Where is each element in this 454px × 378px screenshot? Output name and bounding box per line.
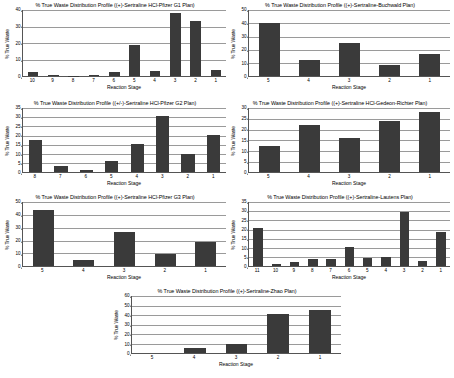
- x-tick-label: 2: [413, 267, 431, 274]
- y-axis-ticks: 01020304050: [11, 202, 22, 267]
- x-tick-label: 1: [185, 267, 226, 274]
- bar-slot: [64, 202, 105, 266]
- chart-lautens: % True Waste Distribution Profile ((+)-S…: [230, 194, 450, 288]
- x-axis-label: Reaction Stage: [22, 180, 226, 186]
- y-tick-label: 30: [241, 106, 246, 111]
- bar: [259, 146, 280, 173]
- chart-title: % True Waste Distribution Profile ((+)-S…: [230, 100, 450, 107]
- plot-wrap: % True Waste05101520253035: [4, 108, 226, 173]
- x-tick-label: 1: [206, 77, 226, 84]
- bar: [211, 70, 222, 76]
- y-axis-label: % True Waste: [113, 296, 120, 354]
- x-tick-label: 5: [22, 267, 63, 274]
- bar-slot: [165, 10, 185, 76]
- x-axis-ticks: 54321: [248, 173, 450, 180]
- bar-series: [132, 296, 341, 353]
- chart-pfizer-g1: % True Waste Distribution Profile ((+)-S…: [4, 2, 226, 98]
- bar-slot: [43, 10, 63, 76]
- bar-slot: [185, 10, 205, 76]
- x-axis-label: Reaction Stage: [22, 274, 226, 280]
- bar: [105, 161, 118, 172]
- y-axis-label: % True Waste: [4, 10, 11, 77]
- x-tick-label: 5: [131, 354, 173, 361]
- bar: [89, 75, 100, 76]
- bar-slot: [124, 10, 144, 76]
- x-tick-label: 3: [104, 267, 145, 274]
- y-axis-ticks: 051015202530: [237, 108, 248, 173]
- y-tick-label: 0: [18, 265, 21, 270]
- y-axis-label: % True Waste: [230, 10, 237, 77]
- y-tick-label: 20: [241, 128, 246, 133]
- x-tick-label: 8: [22, 173, 48, 180]
- x-tick-label: 3: [165, 77, 185, 84]
- bar-slot: [23, 108, 48, 172]
- bar: [207, 135, 220, 172]
- y-tick-label: 20: [241, 48, 246, 53]
- chart-title: % True Waste Distribution Profile ((+)-S…: [4, 194, 226, 201]
- bar-slot: [289, 108, 329, 172]
- x-axis-ticks: 54321: [22, 267, 226, 274]
- bar-slot: [304, 202, 322, 266]
- y-tick-label: 30: [241, 35, 246, 40]
- x-axis-ticks: 10987654321: [22, 77, 226, 84]
- chart-pfizer-g3: % True Waste Distribution Profile ((+)-S…: [4, 194, 226, 288]
- bar: [195, 242, 216, 266]
- bar-slot: [370, 10, 410, 76]
- plot-wrap: % True Waste05101520253035: [230, 202, 450, 267]
- bar-series: [23, 108, 226, 172]
- y-tick-label: 60: [124, 294, 129, 299]
- y-tick-label: 25: [15, 124, 20, 129]
- y-tick-label: 20: [241, 228, 246, 233]
- bar: [400, 212, 409, 266]
- y-axis-label: % True Waste: [4, 202, 11, 267]
- bar-slot: [23, 10, 43, 76]
- bar-slot: [257, 296, 299, 353]
- y-axis-label: % True Waste: [230, 108, 237, 173]
- x-tick-label: 1: [410, 77, 450, 84]
- y-tick-label: 10: [241, 246, 246, 251]
- bar: [253, 228, 262, 266]
- bar: [28, 72, 39, 76]
- bar: [129, 45, 140, 77]
- bar-slot: [249, 108, 289, 172]
- y-tick-label: 30: [15, 115, 20, 120]
- bar: [272, 264, 281, 266]
- bar-slot: [249, 202, 267, 266]
- bar: [339, 43, 360, 76]
- bar: [48, 75, 59, 76]
- bar: [290, 262, 299, 267]
- x-axis-label: Reaction Stage: [248, 180, 450, 186]
- bar: [379, 121, 400, 172]
- x-tick-label: 1: [299, 354, 341, 361]
- y-tick-label: 10: [241, 149, 246, 154]
- bar-slot: [104, 202, 145, 266]
- bar-slot: [185, 202, 226, 266]
- y-tick-label: 20: [124, 333, 129, 338]
- bar-slot: [201, 108, 226, 172]
- bar-series: [23, 202, 226, 266]
- y-tick-label: 0: [244, 265, 247, 270]
- bar: [418, 261, 427, 266]
- x-axis-ticks: 54321: [131, 354, 341, 361]
- y-axis-ticks: 010203040: [11, 10, 22, 77]
- bar: [326, 259, 335, 266]
- plot-wrap: % True Waste01020304050: [230, 10, 450, 77]
- x-axis-ticks: 1110987654321: [248, 267, 450, 274]
- x-tick-label: 4: [144, 77, 164, 84]
- y-tick-label: 50: [124, 304, 129, 309]
- y-tick-label: 50: [241, 8, 246, 13]
- bar-slot: [267, 202, 285, 266]
- plot-wrap: % True Waste010203040: [4, 10, 226, 77]
- bar-slot: [432, 202, 450, 266]
- y-tick-label: 35: [241, 200, 246, 205]
- bar: [308, 259, 317, 267]
- y-axis-ticks: 01020304050: [237, 10, 248, 77]
- x-tick-label: 7: [83, 77, 103, 84]
- y-tick-label: 15: [241, 138, 246, 143]
- y-tick-label: 0: [18, 171, 21, 176]
- x-tick-label: 5: [358, 267, 376, 274]
- y-tick-label: 10: [15, 252, 20, 257]
- x-tick-label: 5: [248, 77, 288, 84]
- bar: [54, 166, 67, 172]
- bar: [29, 140, 42, 172]
